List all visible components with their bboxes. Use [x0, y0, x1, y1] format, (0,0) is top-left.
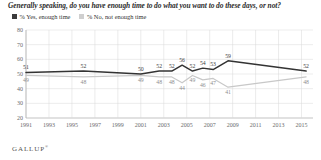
- y-axis-tick-label: 40: [17, 86, 23, 92]
- data-label-no: 49: [138, 77, 144, 83]
- x-axis-tick-label: 1995: [66, 122, 78, 128]
- x-axis-tick-label: 1997: [89, 122, 101, 128]
- x-axis-tick-label: 2009: [227, 122, 239, 128]
- x-axis-tick-label: 2013: [273, 122, 285, 128]
- source-trademark: ®: [45, 144, 49, 149]
- data-label-no: 48: [81, 79, 87, 85]
- data-label-yes: 51: [23, 64, 29, 70]
- x-axis-tick-label: 1993: [43, 122, 55, 128]
- x-axis-tick-label: 1999: [112, 122, 124, 128]
- source-name: GALLUP: [12, 145, 45, 153]
- data-label-no: 47: [210, 80, 216, 86]
- data-label-no: 48: [303, 79, 309, 85]
- legend-swatch-yes-icon: [12, 14, 17, 19]
- x-axis-tick-label: 2003: [158, 122, 170, 128]
- data-label-yes: 52: [190, 63, 196, 69]
- data-label-no: 49: [23, 77, 29, 83]
- x-axis-tick-label: 2007: [204, 122, 216, 128]
- source-logo: GALLUP®: [12, 144, 49, 153]
- data-label-no: 48: [169, 79, 175, 85]
- x-axis-tick-label: 1991: [20, 122, 32, 128]
- legend-item-no: % No, not enough time: [79, 13, 146, 20]
- y-axis-tick-label: 50: [17, 71, 23, 77]
- x-axis-tick-label: 2001: [135, 122, 147, 128]
- y-axis-tick-label: 20: [17, 115, 23, 121]
- legend-label-no: % No, not enough time: [87, 13, 146, 20]
- x-axis-tick-label: 2005: [181, 122, 193, 128]
- chart-svg: 20304050607080 1991199319951997199920012…: [0, 24, 321, 136]
- data-label-no: 46: [200, 82, 206, 88]
- data-label-no: 49: [190, 77, 196, 83]
- y-axis-tick-label: 30: [17, 100, 23, 106]
- data-label-no: 48: [156, 79, 162, 85]
- data-label-yes: 59: [225, 53, 231, 59]
- data-label-no: 41: [225, 89, 231, 95]
- data-label-yes: 52: [81, 63, 87, 69]
- data-label-no: 44: [179, 85, 185, 91]
- legend-swatch-no-icon: [79, 14, 84, 19]
- data-label-yes: 52: [169, 63, 175, 69]
- x-axis-labels: 1991199319951997199920012003200520072009…: [20, 122, 308, 128]
- data-label-yes: 53: [210, 61, 216, 67]
- chart-plot-area: 20304050607080 1991199319951997199920012…: [0, 24, 321, 136]
- y-axis-tick-label: 70: [17, 42, 23, 48]
- data-label-yes: 54: [200, 60, 206, 66]
- data-label-yes: 52: [156, 63, 162, 69]
- series-line-no: [26, 75, 306, 87]
- data-label-yes: 50: [138, 66, 144, 72]
- y-axis-labels: 20304050607080: [17, 27, 23, 121]
- legend-item-yes: % Yes, enough time: [12, 13, 70, 20]
- chart-title: Generally speaking, do you have enough t…: [8, 1, 316, 10]
- y-axis-tick-label: 60: [17, 56, 23, 62]
- grid-lines: [26, 30, 313, 118]
- x-axis-tick-label: 2011: [250, 122, 262, 128]
- series-line-yes: [26, 61, 306, 74]
- y-axis-tick-label: 80: [17, 27, 23, 33]
- legend-label-yes: % Yes, enough time: [20, 13, 71, 20]
- data-label-yes: 56: [179, 57, 185, 63]
- data-label-yes: 52: [303, 63, 309, 69]
- x-axis-tick-label: 2015: [296, 122, 308, 128]
- chart-legend: % Yes, enough time % No, not enough time: [12, 13, 146, 20]
